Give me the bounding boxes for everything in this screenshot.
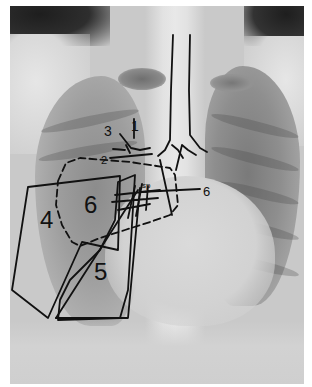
segment-line-3 <box>113 149 125 150</box>
label-2: 2 <box>101 154 107 166</box>
segment-line-2 <box>110 154 152 158</box>
trachea-left-line <box>158 35 173 156</box>
bronchus-branch <box>120 134 150 150</box>
annotation-overlay: 1 2 3 4 5 6 6 sp <box>0 0 312 387</box>
region-4-outline <box>12 176 120 318</box>
trachea-right-line <box>189 35 207 152</box>
label-3: 3 <box>104 123 112 139</box>
region-6-right-arrow <box>176 145 196 170</box>
label-1: 1 <box>131 118 139 134</box>
label-6-left: 6 <box>84 191 97 218</box>
label-5: 5 <box>94 258 107 285</box>
label-6-right: 6 <box>203 184 210 199</box>
label-small-cluster: sp <box>142 181 151 190</box>
label-4: 4 <box>40 206 53 233</box>
